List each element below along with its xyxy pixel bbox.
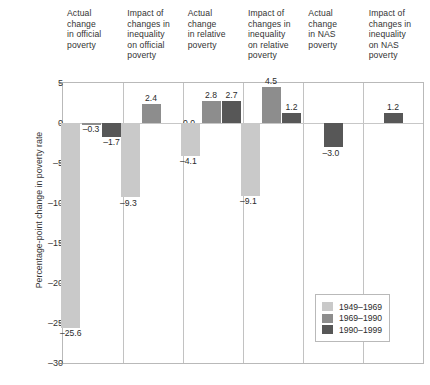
- figure-caption: [62, 374, 424, 384]
- column-header-line: changes in: [248, 19, 303, 30]
- legend-label: 1949–1969: [339, 302, 382, 312]
- column-headers: Actualchangein officialpovertyImpact ofc…: [62, 8, 424, 80]
- column-header-4: Impact ofchanges ininequalityon relative…: [243, 8, 303, 80]
- bar: [61, 123, 80, 328]
- y-axis-title: Percentage-point change in poverty rate: [34, 95, 44, 325]
- bar: [222, 101, 241, 123]
- column-header-line: Actual: [308, 8, 363, 19]
- legend-item: 1990–1999: [322, 325, 382, 335]
- column-header-line: in relative: [188, 29, 243, 40]
- legend-label: 1969–1990: [339, 313, 382, 323]
- bar-value-label: 2.4: [145, 93, 157, 103]
- column-header-line: poverty: [369, 50, 424, 61]
- column-header-line: change: [67, 19, 122, 30]
- column-header-line: Actual: [67, 8, 122, 19]
- column-header-1: Actualchangein officialpoverty: [62, 8, 122, 80]
- bar-value-label: 1.2: [286, 102, 298, 112]
- column-header-6: Impact ofchanges ininequalityon NASpover…: [364, 8, 424, 80]
- bar-value-label: 2.8: [205, 90, 217, 100]
- y-tick-mark: [59, 83, 63, 84]
- column-header-line: poverty: [308, 40, 363, 51]
- bar: [181, 123, 200, 156]
- bar-value-label: –4.1: [180, 156, 197, 166]
- column-header-line: Impact of: [127, 8, 182, 19]
- column-header-line: on official: [127, 40, 182, 51]
- panel-divider: [303, 83, 304, 363]
- column-header-line: change: [188, 19, 243, 30]
- legend-swatch: [322, 325, 333, 334]
- bar: [282, 113, 301, 123]
- column-header-line: poverty: [188, 40, 243, 51]
- bar-value-label: –9.1: [240, 196, 257, 206]
- column-header-line: poverty: [127, 50, 182, 61]
- bar-value-label: –9.3: [120, 198, 137, 208]
- column-header-line: Impact of: [248, 8, 303, 19]
- column-header-line: on relative: [248, 40, 303, 51]
- bar: [121, 123, 140, 197]
- bar: [102, 123, 121, 137]
- column-header-2: Impact ofchanges ininequalityon official…: [122, 8, 182, 80]
- bar-value-label: 4.5: [265, 76, 277, 86]
- column-header-line: in official: [67, 29, 122, 40]
- column-header-line: in NAS: [308, 29, 363, 40]
- column-header-5: Actualchangein NASpoverty: [303, 8, 363, 80]
- bar-value-label: –1.7: [103, 137, 120, 147]
- column-header-line: poverty: [248, 50, 303, 61]
- bar-value-label: –25.6: [60, 328, 82, 338]
- legend-item: 1949–1969: [322, 302, 382, 312]
- bar-value-label: 1.2: [387, 102, 399, 112]
- column-header-line: Actual: [188, 8, 243, 19]
- legend-label: 1990–1999: [339, 325, 382, 335]
- column-header-line: poverty: [67, 40, 122, 51]
- column-header-line: changes in: [369, 19, 424, 30]
- column-header-line: on NAS: [369, 40, 424, 51]
- bar-value-label: –0.3: [83, 124, 100, 134]
- bar: [142, 104, 161, 123]
- chart-legend: 1949–19691969–19901990–1999: [315, 294, 390, 342]
- y-tick-mark: [59, 363, 63, 364]
- column-header-line: inequality: [127, 29, 182, 40]
- column-header-line: change: [308, 19, 363, 30]
- column-header-line: inequality: [369, 29, 424, 40]
- column-header-3: Actualchangein relativepoverty: [183, 8, 243, 80]
- column-header-line: inequality: [248, 29, 303, 40]
- legend-swatch: [322, 302, 333, 311]
- bar: [202, 101, 221, 123]
- chart-figure: Actualchangein officialpovertyImpact ofc…: [0, 0, 430, 385]
- bar-value-label: –3.0: [323, 148, 340, 158]
- bar: [384, 113, 403, 123]
- bar: [324, 123, 343, 147]
- column-header-line: changes in: [127, 19, 182, 30]
- bar-value-label: 2.7: [226, 90, 238, 100]
- legend-item: 1969–1990: [322, 313, 382, 323]
- column-header-line: Impact of: [369, 8, 424, 19]
- bar: [241, 123, 260, 196]
- bar: [262, 87, 281, 123]
- legend-swatch: [322, 314, 333, 323]
